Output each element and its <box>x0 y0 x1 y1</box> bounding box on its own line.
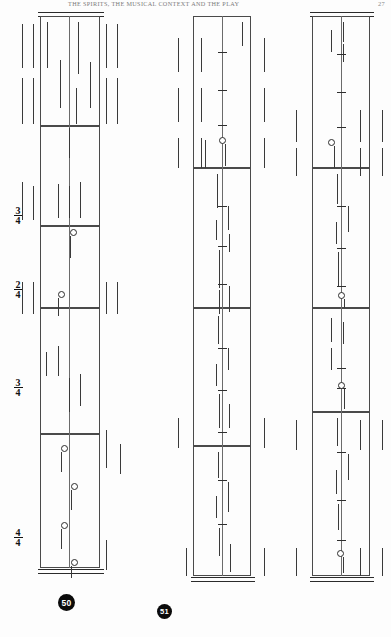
notehead <box>71 559 78 566</box>
figure-number-label: 51 <box>160 607 169 616</box>
column-1-measure-1 <box>40 16 100 126</box>
note-stem <box>70 236 71 258</box>
stroke-mark <box>382 548 383 576</box>
stroke-mark <box>336 470 337 494</box>
note-stem <box>344 299 345 308</box>
stroke-mark <box>69 378 70 412</box>
stroke-mark <box>264 548 265 576</box>
stroke-mark <box>229 404 230 428</box>
time-signature-numerator: 3 <box>10 378 26 387</box>
stroke-mark <box>106 78 107 124</box>
stroke-mark <box>106 282 107 314</box>
stroke-mark <box>296 148 297 176</box>
time-signature-denominator: 4 <box>10 388 26 397</box>
stroke-mark <box>117 78 118 124</box>
column-1-center-divider <box>69 16 70 568</box>
column-1-measure-4 <box>40 308 100 434</box>
stroke-mark <box>360 110 361 142</box>
note-stem <box>334 146 335 168</box>
note-stem <box>225 144 226 166</box>
time-signature-4-4: 4 4 <box>10 528 26 547</box>
time-signature-denominator: 4 <box>10 216 26 225</box>
note-stem <box>71 490 72 510</box>
notehead <box>61 522 68 529</box>
stroke-mark <box>338 252 339 286</box>
time-signature-2-4: 2 4 <box>10 280 26 299</box>
beat-tick <box>337 92 346 93</box>
beat-tick <box>337 500 346 501</box>
stroke-mark <box>348 454 349 480</box>
figure-number-badge-50: 50 <box>58 594 75 611</box>
notehead <box>337 550 344 557</box>
beat-tick <box>337 540 346 541</box>
running-head-title: THE SPIRITS, THE MUSICAL CONTEXT AND THE… <box>68 0 239 7</box>
stroke-mark <box>33 24 34 68</box>
stroke-mark <box>264 88 265 122</box>
stroke-mark <box>33 78 34 124</box>
note-stem <box>343 557 344 573</box>
stroke-mark <box>382 420 383 450</box>
stroke-mark <box>205 140 206 168</box>
stroke-mark <box>296 548 297 576</box>
stroke-mark <box>360 148 361 176</box>
stroke-mark <box>46 352 47 376</box>
notehead <box>58 291 65 298</box>
stroke-mark <box>343 22 344 42</box>
beat-tick <box>218 90 227 91</box>
stroke-mark <box>186 548 187 576</box>
beat-tick <box>218 348 227 349</box>
figure-number-badge-51: 51 <box>157 604 172 619</box>
stroke-mark <box>69 186 70 218</box>
beat-tick <box>337 127 346 128</box>
stroke-mark <box>216 364 217 386</box>
time-signature-3-4-b: 3 4 <box>10 378 26 397</box>
stroke-mark <box>343 322 344 344</box>
stroke-mark <box>120 444 121 474</box>
stroke-mark <box>229 234 230 252</box>
beat-tick <box>218 284 227 285</box>
stroke-mark <box>219 290 220 314</box>
running-head: THE SPIRITS, THE MUSICAL CONTEXT AND THE… <box>0 0 391 11</box>
stroke-mark <box>219 250 220 288</box>
stroke-mark <box>201 88 202 122</box>
note-stem <box>58 298 59 316</box>
column-2-center-divider <box>222 16 223 576</box>
beat-tick <box>218 246 227 247</box>
time-signature-3-4-a: 3 4 <box>10 206 26 225</box>
stroke-mark <box>337 418 338 446</box>
stroke-mark <box>264 38 265 72</box>
stroke-mark <box>230 544 231 572</box>
beat-tick <box>218 524 227 525</box>
time-signature-numerator: 3 <box>10 206 26 215</box>
stroke-mark <box>69 128 70 158</box>
beat-tick <box>337 206 346 207</box>
stroke-mark <box>22 24 23 68</box>
note-stem <box>61 452 62 472</box>
stroke-mark <box>47 22 48 68</box>
stroke-mark <box>242 22 243 46</box>
beat-tick <box>337 54 346 55</box>
page-folio-number: 27 <box>378 0 385 7</box>
time-signature-denominator: 4 <box>10 538 26 547</box>
stroke-mark <box>106 540 107 570</box>
column-1-measure-2 <box>40 126 100 226</box>
stroke-mark <box>178 38 179 72</box>
stroke-mark <box>382 148 383 176</box>
stroke-mark <box>218 316 219 344</box>
notehead <box>338 382 345 389</box>
stroke-mark <box>80 374 81 406</box>
stroke-mark <box>216 496 217 518</box>
beat-tick <box>337 452 346 453</box>
stroke-mark <box>360 420 361 450</box>
stroke-mark <box>331 348 332 370</box>
notehead <box>61 445 68 452</box>
stroke-mark <box>22 182 23 220</box>
stroke-mark <box>80 182 81 218</box>
beat-tick <box>218 125 227 126</box>
stroke-mark <box>216 220 217 240</box>
stroke-mark <box>228 348 229 370</box>
stroke-mark <box>337 174 338 204</box>
stroke-mark <box>33 282 34 314</box>
beat-tick <box>218 206 227 207</box>
stroke-mark <box>336 222 337 244</box>
